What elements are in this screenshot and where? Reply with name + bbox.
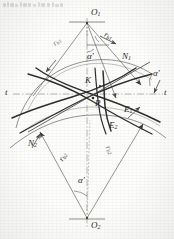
- label-n1: N1: [122, 52, 131, 62]
- dot-k: [99, 85, 101, 87]
- dot-o1: [86, 22, 88, 24]
- line-of-action: [28, 62, 150, 132]
- involute-profile-1: [12, 68, 136, 118]
- label-o2: O2: [91, 221, 100, 231]
- label-e1: E1: [124, 105, 132, 115]
- figure-page: O1 O2 rb1 rb1 rb2 rb2 N1 N2 α′ α′ α′ K P…: [0, 0, 174, 239]
- radii-from-o2: [40, 120, 143, 218]
- dot-p: [92, 97, 95, 100]
- dot-o2: [86, 217, 88, 219]
- label-alpha-right: α′: [153, 69, 160, 78]
- rb1-angle-arc: [95, 36, 99, 42]
- label-e2: E2: [109, 121, 117, 131]
- alpha-arc-bottom: [74, 191, 87, 196]
- radius-o2-right: [87, 124, 143, 218]
- leader-arc1: [46, 60, 56, 72]
- alpha-right-pointer: [154, 80, 160, 93]
- label-k: K: [85, 76, 91, 85]
- label-alpha-bottom: α′: [78, 176, 85, 185]
- radius-o2-to-p: [87, 120, 90, 218]
- label-p: P: [95, 99, 101, 108]
- label-t-left: t: [5, 88, 8, 97]
- gear-geometry-drawing: [0, 0, 174, 239]
- label-alpha-top: α′: [87, 52, 94, 61]
- label-o1: O1: [91, 8, 100, 18]
- label-t-right: t: [164, 88, 167, 97]
- label-n2: N2: [28, 139, 37, 149]
